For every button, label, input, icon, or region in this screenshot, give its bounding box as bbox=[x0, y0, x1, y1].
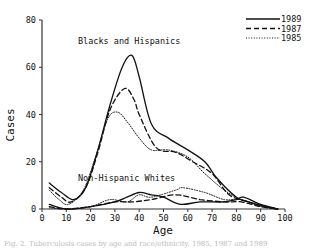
annotation-label: Blacks and Hispanics bbox=[78, 36, 180, 46]
x-tick-label: 20 bbox=[85, 213, 95, 223]
x-tick-label: 50 bbox=[158, 213, 168, 223]
x-tick-label: 70 bbox=[207, 213, 217, 223]
x-tick-label: 0 bbox=[39, 213, 44, 223]
x-tick-label: 60 bbox=[183, 213, 193, 223]
y-tick-label: 60 bbox=[26, 62, 36, 72]
y-tick-label: 80 bbox=[26, 15, 36, 25]
x-tick-label: 90 bbox=[256, 213, 266, 223]
series-line-blacks-and-hispanics-1989 bbox=[49, 55, 277, 209]
annotation-label: Non-Hispanic Whites bbox=[78, 173, 175, 183]
x-tick-label: 10 bbox=[61, 213, 71, 223]
y-tick-label: 20 bbox=[26, 157, 36, 167]
series-line-blacks-and-hispanics-1987 bbox=[49, 88, 277, 209]
x-tick-label: 100 bbox=[277, 213, 292, 223]
figure-caption: Fig. 2. Tuberculosis cases by age and ra… bbox=[4, 240, 308, 248]
legend-label-1985: 1985 bbox=[281, 33, 301, 43]
x-tick-label: 30 bbox=[110, 213, 120, 223]
legend: 198919871985 bbox=[246, 14, 301, 43]
annotations: Blacks and HispanicsNon-Hispanic Whites bbox=[78, 36, 180, 183]
y-tick-label: 0 bbox=[31, 204, 36, 214]
line-chart: 0204060800102030405060708090100 Blacks a… bbox=[0, 0, 312, 249]
y-axis-title: Cases bbox=[4, 108, 17, 141]
series-line-blacks-and-hispanics-1985 bbox=[49, 112, 277, 209]
x-tick-label: 80 bbox=[231, 213, 241, 223]
x-axis-title: Age bbox=[153, 224, 173, 237]
series-lines bbox=[49, 55, 277, 209]
x-tick-label: 40 bbox=[134, 213, 144, 223]
axes: 0204060800102030405060708090100 bbox=[26, 15, 293, 223]
legend-label-1989: 1989 bbox=[281, 14, 301, 24]
y-tick-label: 40 bbox=[26, 110, 36, 120]
legend-label-1987: 1987 bbox=[281, 24, 301, 34]
